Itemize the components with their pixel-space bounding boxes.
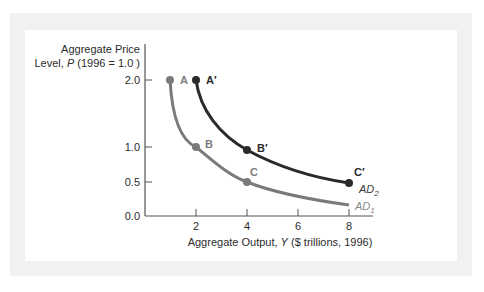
y-ticks: 0.0 0.5 1.0 2.0 bbox=[125, 74, 152, 222]
ad2-label: AD2 bbox=[358, 183, 379, 198]
point-a bbox=[166, 76, 174, 84]
y-tick-label: 2.0 bbox=[125, 74, 140, 86]
point-c-prime bbox=[345, 179, 353, 187]
x-tick-label: 4 bbox=[244, 220, 250, 232]
ad2-curve bbox=[196, 80, 349, 183]
point-b bbox=[192, 143, 200, 151]
x-tick-label: 6 bbox=[295, 220, 301, 232]
x-axis-label: Aggregate Output, Y ($ trillions, 1996) bbox=[188, 236, 373, 248]
point-b-label: B bbox=[205, 138, 213, 150]
point-a-prime-label: A′ bbox=[206, 74, 217, 86]
point-c-prime-label: C′ bbox=[354, 166, 365, 178]
point-a-prime bbox=[192, 76, 200, 84]
x-tick-label: 8 bbox=[346, 220, 352, 232]
x-ticks: 2 4 6 8 bbox=[193, 209, 352, 232]
point-b-prime-label: B′ bbox=[257, 142, 268, 154]
y-tick-label: 0.0 bbox=[125, 210, 140, 222]
y-axis-label-line2: Level, P (1996 = 1.0 ) bbox=[34, 57, 140, 69]
y-axis-label-line1: Aggregate Price bbox=[61, 43, 140, 55]
ad1-label: AD1 bbox=[354, 200, 375, 215]
point-c bbox=[243, 178, 251, 186]
point-a-label: A bbox=[180, 74, 188, 86]
point-c-label: C bbox=[250, 166, 258, 178]
x-tick-label: 2 bbox=[193, 220, 199, 232]
y-tick-label: 1.0 bbox=[125, 141, 140, 153]
ad-chart: Aggregate Price Level, P (1996 = 1.0 ) 0… bbox=[0, 0, 484, 292]
y-tick-label: 0.5 bbox=[125, 176, 140, 188]
point-b-prime bbox=[243, 146, 251, 154]
